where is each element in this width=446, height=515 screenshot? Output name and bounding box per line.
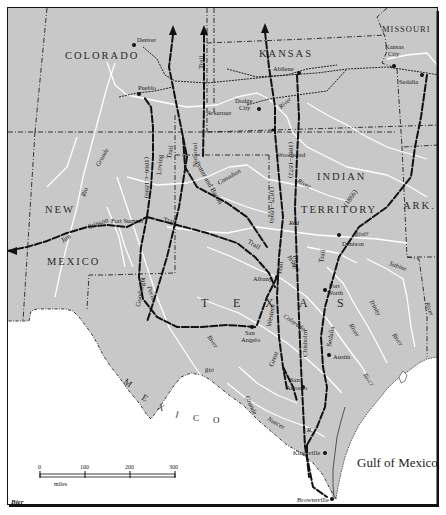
label-kansas-city-2: City [388, 50, 400, 57]
label-denison: Denison [342, 240, 364, 247]
label-missouri: MISSOURI [382, 24, 431, 34]
label-fort-worth-1: Fort [329, 282, 340, 289]
label-sedalia-mo: Sedalia [399, 78, 418, 85]
label-colorado: COLORADO [65, 50, 139, 61]
label-ark: ARK. [403, 200, 436, 211]
label-san-angelo-1: San [245, 329, 256, 336]
label-san-antonio-1: San [290, 376, 301, 383]
label-pueblo: Pueblo [138, 84, 156, 91]
label-chisholm-dates: (1867–1872) [287, 142, 295, 179]
label-nueces-r: R. [306, 426, 313, 433]
label-fort-worth-2: Worth [327, 289, 344, 296]
label-texas-e: E [233, 296, 242, 310]
label-kansas: KANSAS [259, 48, 313, 59]
label-chisholm: Chisholm [301, 329, 309, 357]
scale-tick-0: 0 [38, 464, 41, 470]
scale-tick-100: 100 [80, 464, 89, 470]
label-brownsville: Brownsville [297, 496, 329, 503]
label-territory: TERRITORY [301, 204, 377, 215]
label-arkansas-river: Arkansas [206, 109, 232, 116]
scale-tick-300: 300 [169, 464, 178, 470]
label-abilene: Abilene [273, 65, 294, 72]
label-denver: Denver [137, 36, 157, 43]
label-mexico-c: C [193, 413, 201, 423]
label-dodge-city-1: Dodge [235, 97, 252, 104]
label-texas-t: T [201, 296, 210, 310]
label-chisholm-trail: Trail [291, 255, 300, 269]
label-san-antonio-2: Antonio [286, 384, 307, 391]
label-western-dates: (1875–1890) [268, 187, 276, 224]
label-gulf-of-mexico: Gulf of Mexico [357, 455, 438, 470]
label-kansas-city-1: Kansas [385, 43, 404, 50]
label-goodnight-dates: (1866–c.1890) [143, 157, 151, 199]
scale-unit: miles [54, 481, 68, 487]
label-texas-a: A [299, 296, 310, 310]
cattle-trails-map: COLORADO KANSAS MISSOURI NEW MEXICO INDI… [7, 7, 439, 507]
label-indian: INDIAN [317, 171, 366, 182]
label-texas-s: S [337, 296, 346, 310]
label-mexico-nm: MEXICO [47, 256, 100, 267]
label-kingsville: Kingsville [293, 449, 320, 456]
scale-tick-200: 200 [125, 464, 134, 470]
label-national-trail: Trail [197, 56, 205, 69]
label-austin: Austin [333, 353, 351, 360]
label-new: NEW [45, 204, 75, 215]
label-dodge-city-2: City [239, 104, 251, 111]
label-san-angelo-2: Angelo [241, 336, 260, 343]
label-albany: Albany [253, 275, 273, 282]
label-fort-sumner: Fort Sumner [111, 217, 145, 224]
label-mexico-o: O [213, 415, 222, 425]
map-canvas: COLORADO KANSAS MISSOURI NEW MEXICO INDI… [7, 7, 439, 507]
label-red: Red [288, 219, 300, 226]
